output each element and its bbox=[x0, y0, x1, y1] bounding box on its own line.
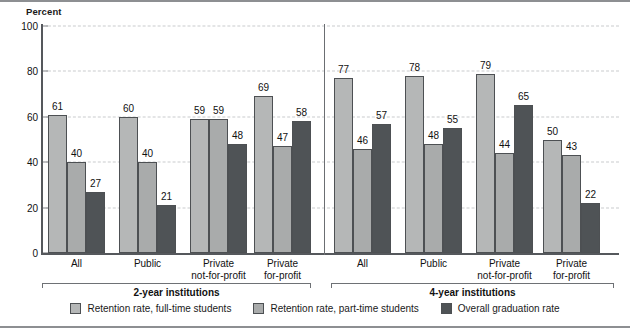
panel-title: 4-year institutions bbox=[331, 287, 614, 298]
bar-value-label: 21 bbox=[161, 191, 172, 202]
bar-value-label: 61 bbox=[52, 101, 63, 112]
bar-value-label: 44 bbox=[499, 139, 510, 150]
bar-value-label: 65 bbox=[518, 91, 529, 102]
legend-swatch bbox=[441, 303, 452, 314]
y-tick-label: 20 bbox=[4, 202, 38, 213]
bar-graduation: 21 bbox=[157, 205, 176, 253]
bar-part-time: 43 bbox=[562, 155, 581, 253]
panel-bracket bbox=[331, 283, 614, 284]
bar-full-time: 50 bbox=[543, 140, 562, 254]
bar-full-time: 69 bbox=[254, 96, 273, 253]
bar-value-label: 55 bbox=[447, 114, 458, 125]
bar-value-label: 40 bbox=[142, 148, 153, 159]
category-label-line2: for-profit bbox=[527, 270, 616, 282]
bar-group: 774657 bbox=[334, 26, 391, 253]
y-tick-label: 40 bbox=[4, 157, 38, 168]
bar-value-label: 77 bbox=[338, 64, 349, 75]
y-tick-label: 80 bbox=[4, 66, 38, 77]
bar-value-label: 79 bbox=[480, 60, 491, 71]
bar-full-time: 59 bbox=[190, 119, 209, 253]
bar-full-time: 61 bbox=[48, 115, 67, 253]
bar-part-time: 44 bbox=[495, 153, 514, 253]
bar-group: 595948 bbox=[190, 26, 247, 253]
legend-item: Overall graduation rate bbox=[441, 303, 560, 314]
bar-full-time: 60 bbox=[119, 117, 138, 253]
y-tick-label: 0 bbox=[4, 248, 38, 259]
bar-part-time: 47 bbox=[273, 146, 292, 253]
bar-graduation: 27 bbox=[86, 192, 105, 253]
legend-swatch bbox=[253, 303, 264, 314]
legend-label: Overall graduation rate bbox=[458, 303, 560, 314]
category-label-line2: for-profit bbox=[238, 270, 327, 282]
bar-value-label: 27 bbox=[90, 178, 101, 189]
bar-value-label: 59 bbox=[213, 105, 224, 116]
bar-value-label: 48 bbox=[428, 130, 439, 141]
bar-graduation: 57 bbox=[372, 124, 391, 253]
plot-area: 6140276040215959486947587746577848557944… bbox=[41, 26, 619, 253]
bar-value-label: 58 bbox=[296, 107, 307, 118]
legend-label: Retention rate, part-time students bbox=[270, 303, 418, 314]
bar-graduation: 48 bbox=[228, 144, 247, 253]
category-label-line1: Private bbox=[527, 258, 616, 270]
bar-group: 614027 bbox=[48, 26, 105, 253]
bar-group: 504322 bbox=[543, 26, 600, 253]
x-axis-line bbox=[41, 253, 619, 255]
category-label-line1: Private bbox=[238, 258, 327, 270]
bar-full-time: 77 bbox=[334, 78, 353, 253]
bar-graduation: 58 bbox=[292, 121, 311, 253]
bar-group: 694758 bbox=[254, 26, 311, 253]
bar-value-label: 47 bbox=[277, 132, 288, 143]
bar-graduation: 55 bbox=[443, 128, 462, 253]
legend-item: Retention rate, part-time students bbox=[253, 303, 418, 314]
bar-part-time: 46 bbox=[353, 149, 372, 253]
bar-value-label: 57 bbox=[376, 110, 387, 121]
bar-full-time: 78 bbox=[405, 76, 424, 253]
bar-value-label: 69 bbox=[258, 82, 269, 93]
bar-graduation: 65 bbox=[514, 105, 533, 253]
bar-value-label: 48 bbox=[232, 130, 243, 141]
y-tick-label: 60 bbox=[4, 111, 38, 122]
legend-label: Retention rate, full-time students bbox=[87, 303, 231, 314]
bar-value-label: 40 bbox=[71, 148, 82, 159]
chart-legend: Retention rate, full-time studentsRetent… bbox=[0, 303, 630, 314]
legend-item: Retention rate, full-time students bbox=[70, 303, 231, 314]
category-label: Privatefor-profit bbox=[527, 258, 616, 281]
bar-part-time: 48 bbox=[424, 144, 443, 253]
bar-value-label: 78 bbox=[409, 62, 420, 73]
bar-graduation: 22 bbox=[581, 203, 600, 253]
bar-value-label: 60 bbox=[123, 103, 134, 114]
bar-value-label: 43 bbox=[566, 141, 577, 152]
bar-part-time: 40 bbox=[138, 162, 157, 253]
bar-value-label: 22 bbox=[585, 189, 596, 200]
bar-group: 604021 bbox=[119, 26, 176, 253]
bar-part-time: 40 bbox=[67, 162, 86, 253]
category-label: Privatefor-profit bbox=[238, 258, 327, 281]
bar-part-time: 59 bbox=[209, 119, 228, 253]
panel-bracket bbox=[42, 283, 311, 284]
bar-value-label: 46 bbox=[357, 135, 368, 146]
bar-full-time: 79 bbox=[476, 74, 495, 253]
legend-swatch bbox=[70, 303, 81, 314]
bar-value-label: 50 bbox=[547, 126, 558, 137]
bar-group: 784855 bbox=[405, 26, 462, 253]
panel-title: 2-year institutions bbox=[42, 287, 311, 298]
bar-group: 794465 bbox=[476, 26, 533, 253]
y-axis-ticks: 020406080100 bbox=[0, 0, 38, 328]
bar-value-label: 59 bbox=[194, 105, 205, 116]
y-tick-label: 100 bbox=[4, 21, 38, 32]
